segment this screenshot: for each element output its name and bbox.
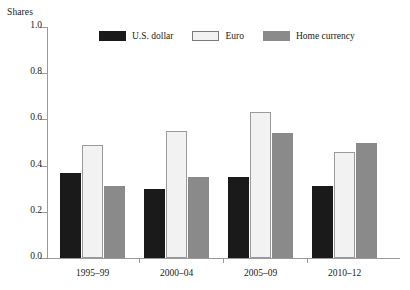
bar-3-2 bbox=[356, 143, 377, 259]
x-axis-label-1: 2000–04 bbox=[160, 268, 193, 278]
bar-0-2 bbox=[104, 186, 125, 258]
bar-1-0 bbox=[144, 189, 165, 258]
y-axis-line bbox=[47, 27, 48, 258]
y-tick-label: 0.4 bbox=[30, 159, 42, 169]
bar-group-2 bbox=[228, 27, 293, 258]
y-axis-title: Shares bbox=[7, 7, 33, 17]
x-axis-label-3: 2010–12 bbox=[328, 268, 361, 278]
x-tick-separator-2 bbox=[307, 258, 308, 263]
bar-2-1 bbox=[250, 112, 271, 258]
y-tick-label: 0.6 bbox=[30, 112, 42, 122]
bar-chart-figure: Shares U.S. dollar Euro Home currency 0.… bbox=[0, 0, 410, 290]
bar-0-1 bbox=[82, 145, 103, 258]
bar-group-1 bbox=[144, 27, 209, 258]
bar-group-3 bbox=[312, 27, 377, 258]
plot-area: 0.00.20.40.60.81.0 1995–992000–042005–09… bbox=[47, 27, 400, 258]
bar-1-2 bbox=[188, 177, 209, 258]
x-tick-separator-0 bbox=[139, 258, 140, 263]
y-tick-label: 0.8 bbox=[30, 66, 42, 76]
x-axis-label-0: 1995–99 bbox=[76, 268, 109, 278]
scan-crop-artifact bbox=[0, 0, 410, 4]
y-tick-label: 0.2 bbox=[30, 205, 42, 215]
y-tick-label: 1.0 bbox=[30, 20, 42, 30]
bar-1-1 bbox=[166, 131, 187, 258]
bar-2-2 bbox=[272, 133, 293, 258]
x-axis-label-2: 2005–09 bbox=[244, 268, 277, 278]
bar-3-0 bbox=[312, 186, 333, 258]
y-tick-label: 0.0 bbox=[30, 251, 42, 261]
bar-3-1 bbox=[334, 152, 355, 258]
x-tick-separator-1 bbox=[223, 258, 224, 263]
bar-2-0 bbox=[228, 177, 249, 258]
bar-0-0 bbox=[60, 173, 81, 258]
bar-group-0 bbox=[60, 27, 125, 258]
